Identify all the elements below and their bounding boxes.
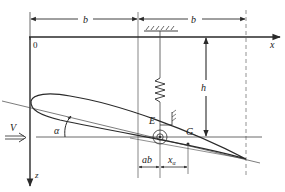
z-axis-label: z bbox=[34, 170, 39, 180]
x-axis-label: x bbox=[269, 39, 275, 50]
origin-label: 0 bbox=[33, 40, 38, 50]
ab-label: ab bbox=[142, 154, 152, 165]
torsion-hatch bbox=[172, 110, 176, 121]
G-label: G bbox=[186, 126, 193, 137]
x-alpha-label: xα bbox=[167, 154, 176, 166]
chord-line bbox=[2, 101, 260, 163]
h-label: h bbox=[201, 82, 206, 93]
E-label: E bbox=[148, 115, 155, 126]
b-label-left: b bbox=[83, 14, 88, 25]
spring-icon bbox=[155, 78, 165, 102]
alpha-arc bbox=[65, 116, 71, 137]
alpha-label: α bbox=[54, 125, 60, 136]
velocity-arrow-head-icon bbox=[19, 133, 26, 142]
ground-hatch-icon bbox=[146, 26, 174, 30]
diagram-canvas: b b x z 0 h E G bbox=[0, 0, 285, 192]
elastic-axis-point bbox=[159, 136, 162, 139]
V-label: V bbox=[10, 122, 18, 133]
airfoil-shape bbox=[31, 94, 246, 159]
b-label-right: b bbox=[191, 14, 196, 25]
